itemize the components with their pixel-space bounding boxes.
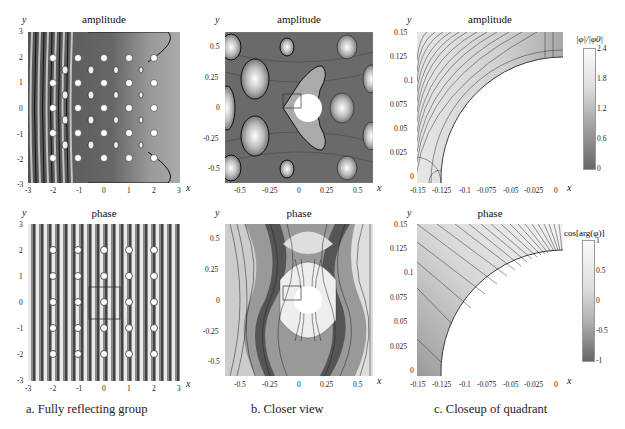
panel-a-top-xtick: -2 [50, 186, 56, 195]
panel-c-bottom-ytick: 0.05 [394, 317, 407, 326]
panel-c-bottom-xtick: -0.025 [524, 380, 543, 389]
panel-c-top-xtick: -0.025 [524, 186, 543, 195]
caption-a: a. Fully reflecting group [26, 402, 148, 417]
panel-b-bottom-xlabel: x [377, 375, 381, 386]
colorbar-amplitude-tick: 0 [597, 164, 601, 173]
panel-b-bottom-xtick: -0.5 [234, 380, 246, 389]
colorbar-phase [582, 240, 595, 362]
panel-c-top-xtick: -0.05 [503, 186, 519, 195]
panel-c-bottom-ytick: 0 [410, 366, 414, 375]
panel-c-bottom-ytick: 0.1 [404, 268, 413, 277]
panel-a-bottom-xlabel: x [186, 378, 190, 389]
panel-a-bottom-ytick: -2 [17, 350, 23, 359]
panel-c-top-ytick: 0.15 [394, 28, 407, 37]
panel-b-bottom-ytick: 0.25 [205, 265, 218, 274]
colorbar-amplitude-tick: 1.2 [597, 104, 606, 113]
colorbar-phase-tick: 1 [596, 236, 600, 245]
panel-a-top-xtick: 3 [177, 186, 181, 195]
panel-a-top-xlabel: x [186, 182, 190, 193]
panel-a-bottom-ylabel: y [22, 207, 26, 218]
panel-b-top-ytick: 0.5 [210, 42, 219, 51]
panel-b-phase-plot [225, 224, 373, 376]
caption-b: b. Closer view [251, 402, 324, 417]
panel-b-bottom-xtick: 0.25 [320, 380, 333, 389]
panel-c-top-ytick: 0.05 [394, 124, 407, 133]
panel-c-bottom-xtick: -0.075 [477, 380, 496, 389]
panel-a-top-ytick: -3 [17, 180, 23, 189]
colorbar-phase-tick: 0.5 [596, 266, 605, 275]
panel-a-top-ytick: 3 [19, 27, 23, 36]
panel-b-top-ytick: -0.25 [203, 134, 219, 143]
panel-a-bottom-xtick: -3 [25, 384, 31, 393]
panel-a-top-ytick: -1 [17, 130, 23, 139]
panel-b-bottom-ytick: 0 [216, 296, 220, 305]
panel-c-amplitude-title: amplitude [415, 13, 565, 25]
panel-c-bottom-xtick: 0 [554, 380, 558, 389]
panel-c-top-ytick: 0.075 [390, 100, 407, 109]
colorbar-amplitude-tick: 2.4 [597, 44, 606, 53]
panel-a-bottom-xtick: 1 [127, 384, 131, 393]
panel-c-top-xtick: -0.15 [410, 186, 426, 195]
panel-a-phase-title: phase [29, 207, 179, 219]
panel-a-bottom-ytick: 0 [19, 298, 23, 307]
panel-b-top-xtick: -0.5 [234, 186, 246, 195]
panel-b-bottom-ylabel: y [215, 207, 219, 218]
panel-a-bottom-ytick: -3 [17, 376, 23, 385]
panel-b-amplitude-title: amplitude [224, 13, 374, 25]
panel-c-bottom-ytick: 0.15 [394, 220, 407, 229]
panel-c-bottom-xtick: -0.05 [503, 380, 519, 389]
colorbar-phase-tick: 0 [596, 296, 600, 305]
panel-c-top-xtick: 0 [554, 186, 558, 195]
panel-a-bottom-xtick: 2 [152, 384, 156, 393]
panel-c-top-ytick: 0.025 [390, 148, 407, 157]
panel-b-top-xtick: 0 [297, 186, 301, 195]
panel-b-top-xtick: 0.5 [353, 186, 362, 195]
panel-b-bottom-ytick: 0.5 [210, 234, 219, 243]
panel-b-top-ytick: -0.5 [208, 164, 220, 173]
panel-c-bottom-xtick: -0.125 [432, 380, 451, 389]
panel-c-phase-plot [417, 224, 563, 376]
panel-c-bottom-ytick: 0.075 [390, 293, 407, 302]
panel-b-top-ytick: 0 [216, 103, 220, 112]
panel-b-top-xlabel: x [377, 182, 381, 193]
panel-a-amplitude-title: amplitude [29, 13, 179, 25]
panel-b-top-xtick: 0.25 [320, 186, 333, 195]
panel-a-top-ytick: 2 [19, 53, 23, 62]
colorbar-phase-tick: -0.5 [596, 326, 608, 335]
panel-a-bottom-xtick: 3 [177, 384, 181, 393]
panel-c-amplitude-plot [417, 32, 563, 183]
panel-c-bottom-ylabel: y [407, 207, 411, 218]
panel-a-top-ytick: -2 [17, 155, 23, 164]
panel-a-top-ytick: 1 [19, 78, 23, 87]
panel-b-bottom-xtick: 0.5 [353, 380, 362, 389]
panel-c-top-xlabel: x [567, 182, 571, 193]
panel-a-top-xtick: 2 [152, 186, 156, 195]
panel-a-bottom-ytick: 3 [19, 220, 23, 229]
panel-b-bottom-xtick: -0.25 [262, 380, 278, 389]
panel-a-bottom-ytick: 1 [19, 272, 23, 281]
panel-c-top-ytick: 0 [410, 172, 414, 181]
panel-b-bottom-ytick: -0.5 [208, 357, 220, 366]
panel-a-top-xtick: 1 [127, 186, 131, 195]
panel-b-top-ylabel: y [215, 14, 219, 25]
colorbar-amplitude-label: |φ|/|φ0| [576, 34, 603, 44]
colorbar-amplitude-tick: 1.8 [597, 74, 606, 83]
panel-a-amplitude-plot [28, 32, 180, 183]
panel-a-bottom-xtick: 0 [102, 384, 106, 393]
panel-c-top-xtick: -0.1 [459, 186, 471, 195]
panel-b-top-ytick: 0.25 [205, 73, 218, 82]
panel-c-bottom-xlabel: x [567, 375, 571, 386]
panel-a-phase-plot [28, 224, 180, 381]
panel-c-top-ytick: 0.125 [390, 52, 407, 61]
panel-a-bottom-ytick: -1 [17, 324, 23, 333]
panel-c-top-xtick: -0.075 [477, 186, 496, 195]
panel-b-phase-title: phase [224, 207, 374, 219]
panel-c-top-ytick: 0.1 [404, 76, 413, 85]
panel-b-top-xtick: -0.25 [262, 186, 278, 195]
colorbar-amplitude-tick: 0.6 [597, 134, 606, 143]
panel-b-amplitude-plot [225, 32, 373, 183]
panel-c-bottom-ytick: 0.025 [390, 342, 407, 351]
panel-c-bottom-xtick: -0.15 [410, 380, 426, 389]
colorbar-phase-tick: -1 [596, 356, 602, 365]
panel-a-bottom-xtick: -1 [76, 384, 82, 393]
